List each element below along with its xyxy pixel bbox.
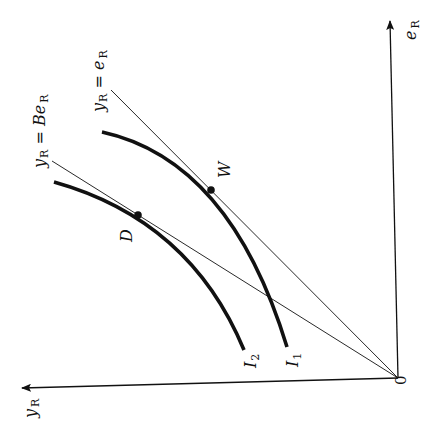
curve-I2 bbox=[54, 182, 244, 350]
y-axis-label: yR bbox=[21, 398, 42, 419]
point-W bbox=[207, 186, 215, 194]
ray-y-equals-Be bbox=[52, 161, 398, 378]
e-axis-label: eR bbox=[401, 20, 422, 40]
curve-I1-label: I1 bbox=[283, 353, 304, 368]
y-axis bbox=[22, 378, 398, 388]
origin-label: 0 bbox=[392, 375, 410, 385]
ray-y-equals-e-label: yR = eR bbox=[89, 50, 110, 113]
diagram-svg: 0 eR yR yR = eR yR = BeR W D I2 I1 bbox=[0, 0, 440, 444]
e-axis bbox=[390, 21, 398, 378]
diagram-canvas: 0 eR yR yR = eR yR = BeR W D I2 I1 bbox=[0, 0, 440, 444]
point-D bbox=[134, 211, 142, 219]
ray-y-equals-Be-label: yR = BeR bbox=[30, 94, 51, 169]
point-W-label: W bbox=[215, 160, 234, 178]
curve-I2-label: I2 bbox=[241, 354, 262, 369]
ray-y-equals-e bbox=[111, 90, 398, 378]
point-D-label: D bbox=[117, 229, 136, 243]
